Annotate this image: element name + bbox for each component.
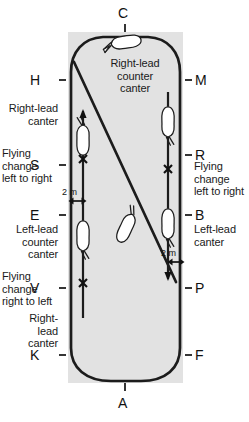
arena-marker-H: H — [30, 73, 56, 87]
arena-marker-A: A — [118, 396, 134, 410]
annotation-center-top: Right-lead counter canter — [103, 57, 167, 95]
annotation-left-lower: Right- lead canter — [2, 312, 58, 350]
arena-marker-P: P — [195, 281, 221, 295]
arena-marker-E: E — [30, 208, 56, 222]
dimension-label-left: 2 m — [62, 188, 92, 197]
dimension-label-right: 2 m — [161, 249, 191, 258]
annotation-left-flying-change-lower: Flying change right to left — [2, 270, 62, 308]
annotation-left-flying-change-upper: Flying change left to right — [2, 147, 64, 185]
diagram-canvas: C A H S E V K M R B P F Right-lead count… — [0, 0, 249, 422]
arena-marker-F: F — [195, 348, 221, 362]
annotation-left-upper: Right-lead canter — [2, 102, 58, 127]
annotation-left-mid: Left-lead counter canter — [2, 223, 58, 261]
arena-marker-B: B — [195, 208, 221, 222]
arena-marker-C: C — [118, 6, 134, 20]
annotation-right-mid: Left-lead canter — [194, 223, 249, 248]
arena-marker-M: M — [195, 73, 221, 87]
arena-marker-K: K — [30, 348, 56, 362]
annotation-right-flying-change: Flying change left to right — [194, 160, 249, 198]
